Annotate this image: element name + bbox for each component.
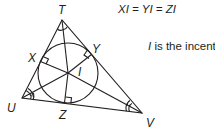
radius-iz <box>65 73 69 103</box>
equal-distance-equation: XI = YI = ZI <box>118 3 176 15</box>
angle-mark-t-1 <box>58 29 63 30</box>
angle-mark-u-3 <box>31 95 32 100</box>
bisector-t <box>62 20 68 73</box>
radius-ix <box>41 62 69 74</box>
label-y: Y <box>92 42 101 56</box>
angle-mark-v-4 <box>127 101 130 106</box>
incenter-note-text: is the incenter. <box>151 40 215 52</box>
incenter-note: I is the incenter. <box>148 40 215 52</box>
bisector-v <box>68 73 142 113</box>
label-v: V <box>146 116 155 130</box>
label-i: I <box>78 65 82 79</box>
label-x: X <box>27 51 37 65</box>
label-u: U <box>7 101 16 115</box>
label-z: Z <box>58 108 67 122</box>
label-t: T <box>58 3 67 17</box>
incenter-diagram: T X Y I U Z V <box>0 0 215 134</box>
angle-mark-v-3 <box>130 104 132 107</box>
